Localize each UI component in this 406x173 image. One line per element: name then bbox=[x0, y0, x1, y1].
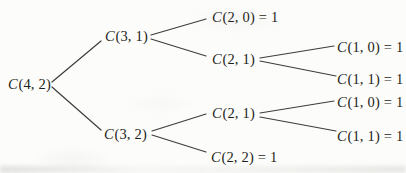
node-func-symbol: C bbox=[337, 39, 347, 55]
edge-c32-c22 bbox=[152, 135, 206, 152]
node-args: (3, 2) bbox=[114, 126, 147, 142]
edge-c21a-c10a bbox=[260, 46, 334, 58]
edge-c31-c20 bbox=[151, 19, 206, 35]
tree-node-c-3-2: C(3, 2) bbox=[104, 127, 147, 142]
node-func-symbol: C bbox=[337, 128, 347, 144]
node-args: (2, 0) = 1 bbox=[222, 9, 278, 25]
tree-node-c-1-1-lower: C(1, 1) = 1 bbox=[337, 129, 403, 144]
tree-node-c-2-1-lower: C(2, 1) bbox=[212, 106, 255, 121]
tree-node-c-1-0-lower: C(1, 0) = 1 bbox=[337, 95, 403, 110]
node-args: (1, 0) = 1 bbox=[347, 39, 403, 55]
edge-c42-c31 bbox=[52, 41, 101, 82]
tree-node-c-1-1-upper: C(1, 1) = 1 bbox=[337, 72, 403, 87]
node-args: (2, 2) = 1 bbox=[221, 149, 277, 165]
node-args: (4, 2) bbox=[18, 76, 51, 92]
tree-node-c-4-2: C(4, 2) bbox=[8, 77, 51, 92]
edge-c32-c21b bbox=[152, 114, 206, 131]
node-args: (3, 1) bbox=[115, 28, 148, 44]
node-func-symbol: C bbox=[105, 28, 115, 44]
scan-bottom-artifact bbox=[0, 166, 406, 173]
tree-node-c-2-0: C(2, 0) = 1 bbox=[212, 10, 278, 25]
binomial-recursion-tree: C(4, 2) C(3, 1) C(2, 0) = 1 C(2, 1) C(1,… bbox=[0, 0, 406, 173]
tree-node-c-1-0-upper: C(1, 0) = 1 bbox=[337, 40, 403, 55]
node-func-symbol: C bbox=[212, 105, 222, 121]
node-func-symbol: C bbox=[212, 51, 222, 67]
node-func-symbol: C bbox=[211, 149, 221, 165]
node-args: (1, 1) = 1 bbox=[347, 71, 403, 87]
node-args: (1, 1) = 1 bbox=[347, 128, 403, 144]
node-args: (2, 1) bbox=[222, 105, 255, 121]
node-args: (2, 1) bbox=[222, 51, 255, 67]
edge-c42-c32 bbox=[52, 87, 101, 130]
node-func-symbol: C bbox=[8, 76, 18, 92]
edge-c21a-c11a bbox=[260, 61, 336, 76]
edge-c21b-c10b bbox=[260, 101, 334, 113]
tree-node-c-3-1: C(3, 1) bbox=[105, 29, 148, 44]
node-func-symbol: C bbox=[337, 94, 347, 110]
node-func-symbol: C bbox=[104, 126, 114, 142]
tree-node-c-2-1-upper: C(2, 1) bbox=[212, 52, 255, 67]
node-args: (1, 0) = 1 bbox=[347, 94, 403, 110]
edge-c31-c21a bbox=[151, 39, 206, 56]
edge-c21b-c11b bbox=[260, 117, 336, 131]
tree-node-c-2-2: C(2, 2) = 1 bbox=[211, 150, 277, 165]
node-func-symbol: C bbox=[337, 71, 347, 87]
node-func-symbol: C bbox=[212, 9, 222, 25]
